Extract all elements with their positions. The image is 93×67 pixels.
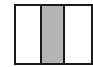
left-panel xyxy=(16,6,40,63)
middle-panel-shaded xyxy=(40,6,65,63)
right-panel xyxy=(65,6,91,63)
three-panel-frame xyxy=(14,4,93,65)
